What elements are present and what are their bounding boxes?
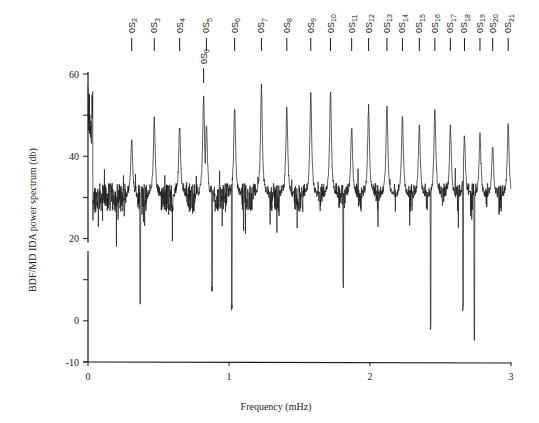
mode-label-0s6: 0S6 bbox=[230, 18, 242, 51]
y-tick-label: 0 bbox=[74, 315, 79, 326]
svg-text:0S7: 0S7 bbox=[256, 18, 268, 33]
y-axis: -100204060 bbox=[66, 69, 88, 368]
svg-text:0S21: 0S21 bbox=[503, 14, 515, 33]
svg-text:0S10: 0S10 bbox=[326, 14, 338, 33]
y-tick-label: 40 bbox=[69, 151, 79, 162]
mode-label-0s5: 0S5 bbox=[201, 18, 213, 51]
mode-label-0s15: 0S15 bbox=[414, 14, 426, 51]
x-axis-title: Frequency (mHz) bbox=[241, 401, 312, 413]
mode-label-0s4: 0S4 bbox=[175, 18, 187, 51]
svg-text:0S8: 0S8 bbox=[282, 18, 294, 33]
svg-text:0S14: 0S14 bbox=[397, 14, 409, 33]
x-tick-label: 0 bbox=[86, 371, 91, 382]
svg-text:0S20: 0S20 bbox=[488, 14, 500, 33]
mode-label-0s8: 0S8 bbox=[282, 18, 294, 51]
svg-text:0S6: 0S6 bbox=[230, 18, 242, 33]
mode-label-0s2: 0S2 bbox=[127, 18, 139, 51]
mode-label-0s11: 0S11 bbox=[347, 15, 359, 51]
mode-label-0s7: 0S7 bbox=[256, 18, 268, 51]
mode-label-0s10: 0S10 bbox=[326, 14, 338, 51]
svg-text:0S5: 0S5 bbox=[201, 18, 213, 33]
mode-label-0s16: 0S16 bbox=[430, 14, 442, 51]
y-tick-label: -10 bbox=[66, 357, 79, 368]
svg-text:0S3: 0S3 bbox=[149, 18, 161, 33]
mode-label-0s17: 0S17 bbox=[445, 14, 457, 51]
svg-text:0S19: 0S19 bbox=[475, 14, 487, 33]
svg-text:0S13: 0S13 bbox=[382, 14, 394, 33]
x-axis: 0123 bbox=[83, 362, 514, 382]
svg-text:0S18: 0S18 bbox=[459, 14, 471, 33]
x-tick-label: 2 bbox=[368, 371, 373, 382]
svg-text:0S16: 0S16 bbox=[430, 14, 442, 33]
mode-label-0s18: 0S18 bbox=[459, 14, 471, 51]
mode-label-0s3: 0S3 bbox=[149, 18, 161, 51]
mode-label-0s14: 0S14 bbox=[397, 14, 409, 51]
mode-labels: 0S00S20S30S40S50S60S70S80S90S100S110S120… bbox=[127, 14, 515, 83]
mode-label-0s0: 0S0 bbox=[199, 49, 211, 83]
mode-label-0s19: 0S19 bbox=[475, 14, 487, 51]
svg-text:0S17: 0S17 bbox=[445, 14, 457, 33]
x-tick-label: 3 bbox=[509, 371, 514, 382]
mode-label-0s9: 0S9 bbox=[306, 18, 318, 51]
y-axis-title: BDF/MD IDA power spectrum (db) bbox=[27, 148, 39, 292]
mode-label-0s12: 0S12 bbox=[364, 14, 376, 51]
y-tick-label: 20 bbox=[69, 233, 79, 244]
svg-text:0S9: 0S9 bbox=[306, 18, 318, 33]
svg-text:0S4: 0S4 bbox=[175, 18, 187, 33]
svg-text:0S11: 0S11 bbox=[347, 15, 359, 33]
x-tick-label: 1 bbox=[227, 371, 232, 382]
mode-label-0s13: 0S13 bbox=[382, 14, 394, 51]
mode-label-0s21: 0S21 bbox=[503, 14, 515, 51]
mode-label-0s20: 0S20 bbox=[488, 14, 500, 51]
svg-text:0S15: 0S15 bbox=[414, 14, 426, 33]
power-spectrum-chart: 0S00S20S30S40S50S60S70S80S90S100S110S120… bbox=[0, 0, 539, 423]
y-tick-label: 60 bbox=[69, 69, 79, 80]
spectrum-trace bbox=[88, 84, 511, 341]
svg-text:0S2: 0S2 bbox=[127, 18, 139, 33]
svg-text:0S0: 0S0 bbox=[199, 49, 211, 64]
svg-text:0S12: 0S12 bbox=[364, 14, 376, 33]
